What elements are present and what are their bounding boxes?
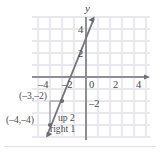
x-tick-label-zero: 0	[89, 80, 94, 91]
rise-label: up 2	[58, 113, 75, 123]
x-tick-label-neg4: –4	[38, 80, 49, 91]
y-tick-label-2: 2	[78, 49, 83, 60]
point-marker-a	[60, 99, 64, 103]
x-tick-label-2: 2	[113, 80, 118, 91]
y-tick-label-neg2: –2	[89, 99, 100, 110]
y-axis-label: y	[85, 3, 90, 14]
point-label-b: (–4,–4)	[6, 115, 34, 125]
point-label-a: (–3,–2)	[19, 91, 47, 101]
footer-divider	[4, 146, 156, 147]
x-tick-label-neg2: –2	[62, 80, 73, 91]
x-tick-label-4: 4	[136, 80, 141, 91]
y-tick-label-4: 4	[78, 25, 83, 36]
graph-figure-container: y –4 –2 0 2 4 4 2 –2 (–3,–2) (–4,–4) up …	[0, 0, 160, 157]
run-label: right 1	[50, 124, 75, 134]
